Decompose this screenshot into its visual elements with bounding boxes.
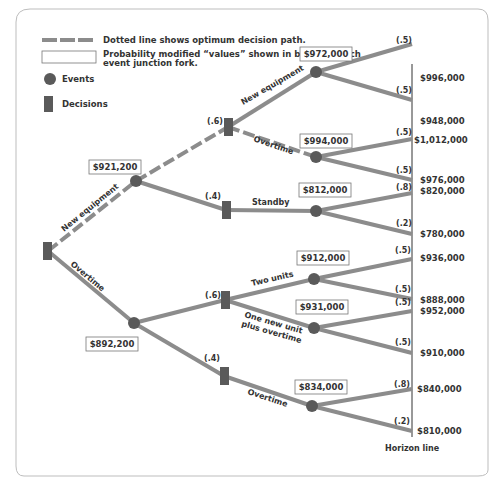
prob: (.2) [396,219,412,228]
prob: (.5) [396,166,412,175]
outcome: $840,000 [417,384,462,394]
legend-box-icon [42,51,96,63]
decision-tree: Dotted line shows optimum decision path.… [0,0,496,488]
outcome: $910,000 [420,348,465,358]
legend-decisions: Decisions [62,99,108,109]
outcome: $810,000 [417,426,462,436]
decision-node-root [43,242,52,260]
value-ne-ne: $972,000 [304,49,349,59]
event-node-6 [306,400,318,412]
decision-icon [44,96,53,112]
value-ne-sb: $812,000 [303,185,348,195]
value-ot-ot: $834,000 [299,382,344,392]
outcome: $888,000 [420,295,465,305]
horizon-label: Horizon line [385,444,440,453]
value-ot-one: $931,000 [300,302,345,312]
prob: (.5) [396,86,412,95]
event-node-5 [308,322,320,334]
outcome: $952,000 [420,306,465,316]
outcome: $780,000 [420,229,465,239]
outcome: $1,012,000 [414,135,468,145]
decision-node-ot [221,291,230,309]
legend-dotted-text: Dotted line shows optimum decision path. [103,35,306,45]
decision-node-ne-lo [222,201,231,219]
outcome: $948,000 [420,116,465,126]
decision-node-ne [224,118,233,136]
prob: (.2) [394,417,410,426]
prob: (.8) [396,183,412,192]
outcome: $996,000 [420,73,465,83]
decision-node-ot-lo [220,367,229,385]
prob: (.5) [395,338,411,347]
value-lower: $892,200 [90,339,135,349]
event-icon [44,73,56,85]
prob: (.5) [396,128,412,137]
prob: (.8) [394,380,410,389]
event-node-2 [310,151,322,163]
prob: (.5) [395,298,411,307]
prob: (.5) [395,285,411,294]
prob: (.4) [205,192,221,201]
legend-box-text-2: event junction fork. [103,58,198,68]
event-node-1 [310,66,322,78]
label-standby: Standby [252,198,290,207]
prob: (.6) [207,117,223,126]
prob: (.6) [205,291,221,300]
label-overtime: Overtime [252,134,295,156]
value-upper: $921,200 [93,162,138,172]
prob: (.4) [204,354,220,363]
label-root-upper: New equipment [60,182,121,234]
event-node-4 [308,273,320,285]
label-root-lower: Overtime [69,260,107,294]
prob: (.5) [396,36,412,45]
legend-events: Events [62,74,94,84]
prob: (.5) [395,246,411,255]
event-node-3 [310,205,322,217]
event-node-ot [128,317,140,329]
value-ne-ot: $994,000 [304,136,349,146]
value-ot-two: $912,000 [301,253,346,263]
outcome: $976,000 [420,175,465,185]
outcome: $820,000 [420,186,465,196]
event-node-ne [130,175,142,187]
outcome: $936,000 [420,253,465,263]
